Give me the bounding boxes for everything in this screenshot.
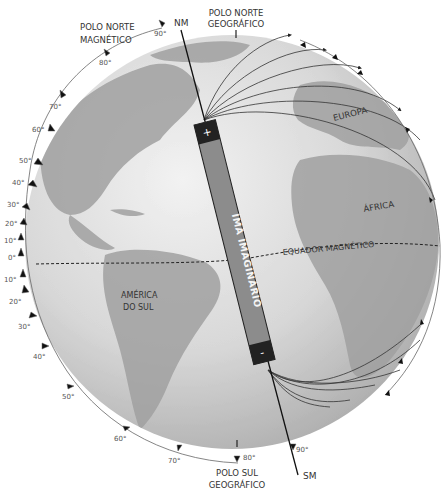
deg-s60: 60°: [114, 435, 126, 443]
deg-40: 40°: [12, 179, 24, 187]
deg-s50: 50°: [62, 393, 74, 401]
deg-80: 80°: [99, 59, 111, 67]
deg-90: 90°: [154, 30, 166, 38]
deg-30: 30°: [7, 201, 19, 209]
deg-s40: 40°: [33, 353, 45, 361]
south-america-label-2: DO SUL: [123, 303, 154, 312]
deg-10: 10°: [4, 237, 16, 245]
deg-s80: 80°: [243, 454, 255, 462]
deg-50: 50°: [19, 157, 31, 165]
deg-60: 60°: [32, 126, 44, 134]
south-geographic-pole-label-1: POLO SUL: [216, 468, 258, 478]
deg-s20: 20°: [9, 298, 21, 306]
north-geographic-pole-label-1: POLO NORTE: [209, 8, 264, 18]
north-geographic-pole-label-2: GEOGRÁFICO: [208, 18, 265, 29]
deg-s30: 30°: [18, 323, 30, 331]
north-magnetic-pole-label-1: POLO NORTE: [80, 22, 135, 32]
nm-label: NM: [174, 18, 189, 28]
deg-70: 70°: [49, 103, 61, 111]
north-magnetic-pole-label-2: MAGNÉTICO: [80, 34, 132, 45]
south-america-label-1: AMÉRICA: [121, 289, 158, 300]
sm-label: SM: [303, 471, 316, 481]
south-geographic-pole-label-2: GEOGRÁFICO: [209, 479, 266, 490]
magnetic-globe-diagram: + - ÍMÃ IMAGINÁRIO NM SM POLO NORTE MAGN…: [0, 0, 446, 491]
deg-s10: 10°: [4, 276, 16, 284]
deg-s90: 90°: [296, 446, 308, 454]
deg-0: 0°: [8, 254, 16, 262]
deg-s70: 70°: [168, 457, 180, 465]
deg-20: 20°: [5, 220, 17, 228]
